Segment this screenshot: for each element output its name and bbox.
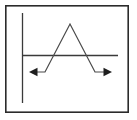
function-graph-diagram — [0, 0, 137, 120]
right-arrow-icon — [104, 68, 113, 76]
function-curve — [35, 24, 107, 72]
left-arrow-icon — [29, 68, 38, 76]
figure-frame — [6, 6, 128, 112]
figure-container — [0, 0, 137, 120]
